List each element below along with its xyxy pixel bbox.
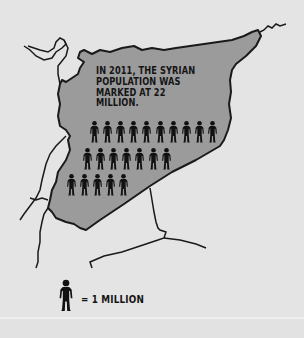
infographic-canvas: IN 2011, THE SYRIAN POPULATION WAS MARKE… <box>0 0 304 338</box>
caption-line-2: POPULATION WAS <box>96 77 208 88</box>
israel-jordan-border <box>36 208 48 268</box>
person-icon <box>101 119 114 145</box>
person-icon <box>117 172 130 198</box>
person-icon <box>88 119 101 145</box>
lebanon-south-border <box>30 198 48 200</box>
person-icon <box>114 119 127 145</box>
person-icon <box>153 119 166 145</box>
person-icon <box>91 172 104 198</box>
person-row-3 <box>65 172 130 198</box>
person-icon <box>104 172 117 198</box>
turkey-border-west <box>24 38 66 60</box>
person-icon <box>127 119 140 145</box>
person-icon <box>180 119 193 145</box>
person-icon <box>206 119 219 145</box>
person-icon <box>107 146 120 172</box>
person-icon <box>65 172 78 198</box>
bottom-strip <box>0 319 304 338</box>
legend: = 1 MILLION <box>58 276 153 318</box>
iraq-saudi-border <box>164 238 206 248</box>
person-icon <box>160 146 173 172</box>
person-icon <box>81 146 94 172</box>
population-caption: IN 2011, THE SYRIAN POPULATION WAS MARKE… <box>96 66 208 109</box>
person-icon <box>167 119 180 145</box>
person-row-2 <box>81 146 173 172</box>
person-icon <box>146 146 159 172</box>
person-icon <box>140 119 153 145</box>
border-northeast <box>260 24 286 32</box>
legend-text: = 1 MILLION <box>81 294 144 305</box>
person-row-1 <box>88 119 219 145</box>
iraq-border-vertical <box>150 188 166 240</box>
person-icon <box>78 172 91 198</box>
person-icon <box>94 146 107 172</box>
legend-person-icon <box>58 276 74 318</box>
person-icon <box>133 146 146 172</box>
person-icon <box>193 119 206 145</box>
caption-line-4: MILLION. <box>96 98 208 109</box>
jordan-iraq-border <box>90 240 158 268</box>
person-icon <box>120 146 133 172</box>
